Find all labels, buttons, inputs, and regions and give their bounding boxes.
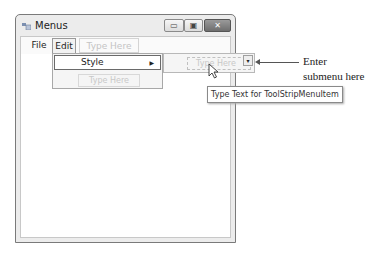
submenu-arrow-icon: ▶ bbox=[149, 56, 154, 69]
menu-type-here-placeholder[interactable]: Type Here bbox=[79, 38, 139, 53]
title-bar[interactable]: Menus ▭ ▣ ✕ bbox=[16, 15, 235, 35]
edit-type-here-placeholder[interactable]: Type Here bbox=[78, 74, 140, 87]
annotation-text: Enter submenu here bbox=[303, 54, 364, 84]
menu-item-file[interactable]: File bbox=[28, 38, 50, 53]
style-label: Style bbox=[81, 56, 104, 69]
annotation-line-2: submenu here bbox=[303, 69, 364, 84]
app-form-icon bbox=[22, 22, 31, 30]
window-title: Menus bbox=[35, 20, 68, 31]
mouse-cursor-icon bbox=[208, 63, 220, 79]
menu-item-style[interactable]: Style ▶ bbox=[54, 55, 161, 70]
menus-form-window: Menus ▭ ▣ ✕ File Edit Type Here bbox=[15, 14, 236, 243]
menu-item-edit[interactable]: Edit bbox=[52, 38, 76, 53]
menu-strip: File Edit Type Here bbox=[21, 37, 230, 54]
minimize-button[interactable]: ▭ bbox=[164, 19, 184, 32]
maximize-icon: ▣ bbox=[185, 20, 202, 31]
edit-dropdown-menu: Style ▶ Type Here bbox=[52, 53, 163, 89]
minimize-icon: ▭ bbox=[165, 20, 183, 31]
close-button[interactable]: ✕ bbox=[204, 19, 231, 32]
submenu-dropdown-button[interactable]: ▾ bbox=[243, 55, 253, 66]
close-icon: ✕ bbox=[205, 20, 230, 31]
chevron-down-icon: ▾ bbox=[246, 57, 249, 64]
maximize-button[interactable]: ▣ bbox=[184, 19, 203, 32]
annotation-line-1: Enter bbox=[303, 54, 364, 69]
tooltip: Type Text for ToolStripMenuItem bbox=[207, 86, 343, 103]
annotation-arrow-line bbox=[257, 62, 299, 63]
